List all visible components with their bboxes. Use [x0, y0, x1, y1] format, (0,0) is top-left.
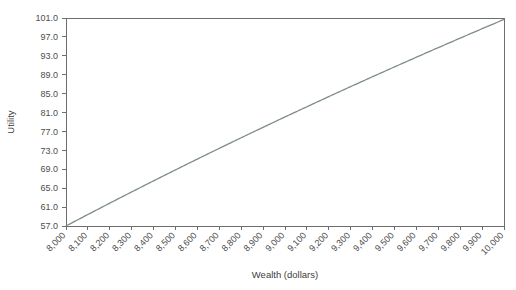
y-tick-label: 97.0 — [40, 32, 58, 42]
x-axis-title: Wealth (dollars) — [252, 269, 318, 280]
y-tick-label: 89.0 — [40, 70, 58, 80]
y-tick-label: 85.0 — [40, 89, 58, 99]
y-axis-title: Utility — [5, 110, 16, 133]
y-tick-label: 73.0 — [40, 146, 58, 156]
chart-canvas: 101.097.093.089.085.081.077.073.069.065.… — [0, 0, 516, 290]
plot-area — [66, 18, 504, 226]
y-tick-label: 77.0 — [40, 127, 58, 137]
utility-wealth-chart: 101.097.093.089.085.081.077.073.069.065.… — [0, 0, 516, 290]
y-tick-label: 81.0 — [40, 108, 58, 118]
y-tick-label: 93.0 — [40, 51, 58, 61]
y-tick-label: 57.0 — [40, 221, 58, 231]
x-axis-ticks — [66, 226, 504, 230]
y-tick-label: 69.0 — [40, 164, 58, 174]
y-tick-label: 65.0 — [40, 183, 58, 193]
y-tick-label: 61.0 — [40, 202, 58, 212]
y-tick-label: 101.0 — [35, 13, 58, 23]
